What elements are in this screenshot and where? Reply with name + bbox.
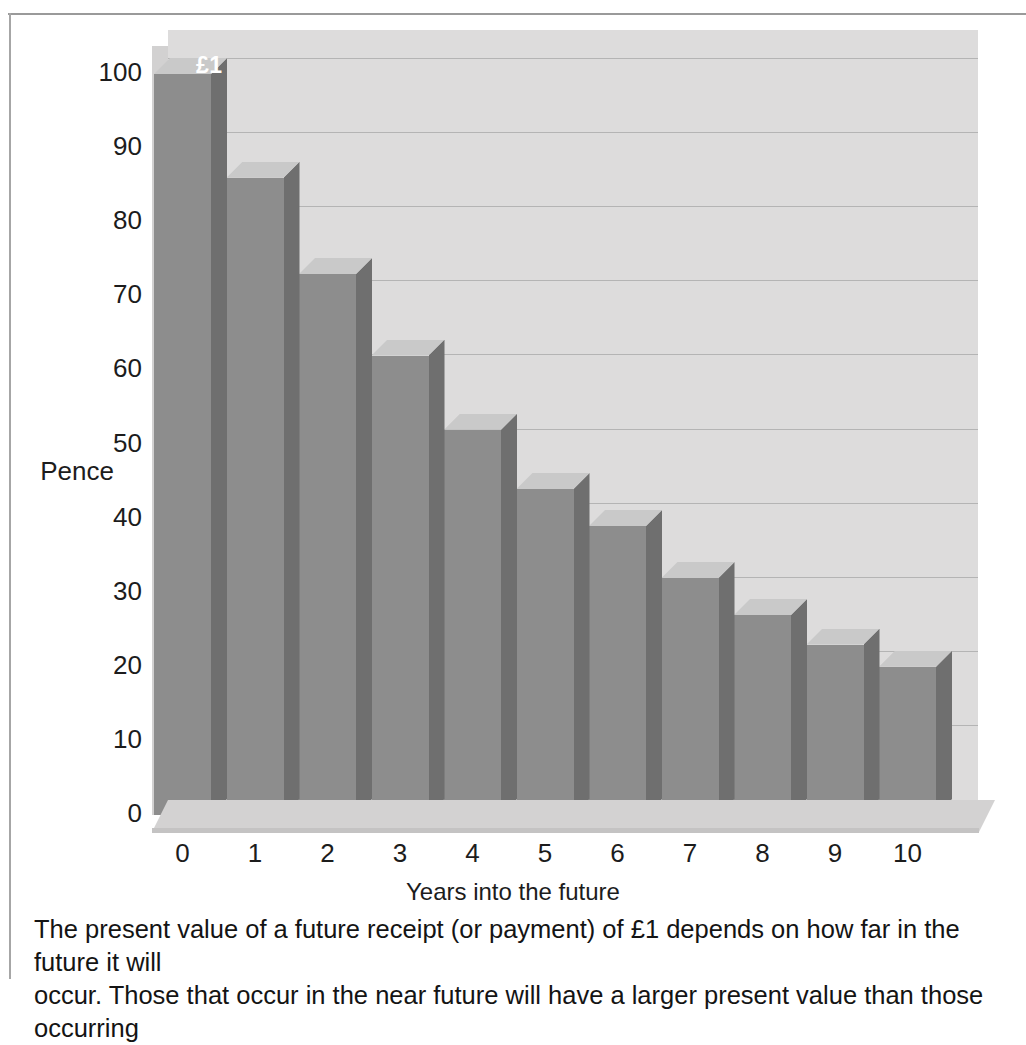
x-tick-label: 0 (153, 838, 213, 869)
bar-chart-figure: 0102030405060708090100 Pence 01234567891… (0, 0, 1026, 900)
bar-side-face (719, 562, 735, 815)
y-axis-title: Pence (22, 456, 114, 487)
y-tick-label: 40 (46, 502, 142, 533)
y-tick-label: 30 (46, 576, 142, 607)
bar (227, 162, 300, 815)
y-tick-label: 20 (46, 650, 142, 681)
y-tick-label: 70 (46, 279, 142, 310)
bar-front-face (734, 615, 791, 815)
x-tick-label: 4 (443, 838, 503, 869)
bar-side-face (429, 340, 445, 815)
gridline (168, 58, 978, 59)
bar-front-face (589, 526, 646, 815)
x-tick-label: 9 (805, 838, 865, 869)
bar-side-face (284, 162, 300, 815)
x-tick-label: 10 (878, 838, 938, 869)
bar-side-face (501, 414, 517, 815)
chart-floor-front (152, 828, 979, 833)
bar-side-face (211, 58, 227, 815)
bar (879, 651, 952, 815)
x-tick-label: 6 (588, 838, 648, 869)
bar (517, 473, 590, 815)
y-tick-label: 100 (46, 57, 142, 88)
bar-front-face (299, 274, 356, 815)
x-tick-label: 2 (298, 838, 358, 869)
x-tick-label: 1 (225, 838, 285, 869)
y-tick-label: 90 (46, 131, 142, 162)
caption-line-2: occur. Those that occur in the near futu… (34, 979, 1006, 1045)
bar (662, 562, 735, 815)
bar-front-face (444, 430, 501, 815)
x-axis-title: Years into the future (0, 878, 1026, 906)
caption-line-1: The present value of a future receipt (o… (34, 913, 1006, 979)
bar-front-face (517, 489, 574, 815)
bar-front-face (879, 667, 936, 815)
y-tick-label: 50 (46, 428, 142, 459)
bar-data-label: £1 (196, 52, 223, 79)
figure-caption: The present value of a future receipt (o… (34, 913, 1006, 1045)
bar (444, 414, 517, 815)
y-tick-label: 10 (46, 724, 142, 755)
bar-front-face (154, 74, 211, 815)
bar (154, 58, 227, 815)
bar (807, 629, 880, 815)
chart-floor (152, 800, 995, 832)
bar-side-face (646, 510, 662, 815)
x-tick-label: 5 (515, 838, 575, 869)
bar-side-face (574, 473, 590, 815)
bar-side-face (936, 651, 952, 815)
bar-side-face (356, 258, 372, 815)
bar-front-face (372, 356, 429, 815)
bar-side-face (791, 599, 807, 815)
bar-front-face (227, 178, 284, 815)
bar-front-face (807, 645, 864, 815)
bar (589, 510, 662, 815)
x-tick-label: 3 (370, 838, 430, 869)
bar (734, 599, 807, 815)
bar (372, 340, 445, 815)
bar-front-face (662, 578, 719, 815)
y-tick-label: 0 (46, 798, 142, 829)
gridline (168, 132, 978, 133)
bar (299, 258, 372, 815)
bar-side-face (864, 629, 880, 815)
y-tick-label: 60 (46, 353, 142, 384)
x-tick-label: 7 (660, 838, 720, 869)
y-tick-label: 80 (46, 205, 142, 236)
x-tick-label: 8 (733, 838, 793, 869)
